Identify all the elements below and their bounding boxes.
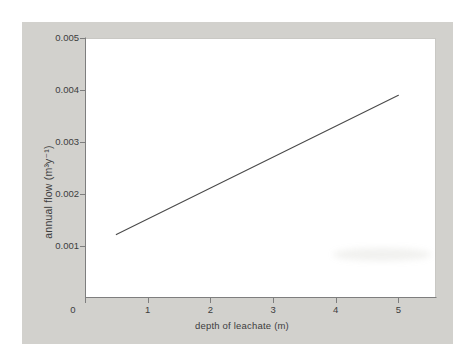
y-tick-label: 0.005 xyxy=(36,32,79,44)
figure-page: depth of leachate (m) annual flow (m³y⁻¹… xyxy=(0,0,468,364)
data-line xyxy=(116,95,398,234)
x-tick-label: 3 xyxy=(258,304,288,316)
y-tick-label: 0.004 xyxy=(36,84,79,96)
y-tick-label: 0.001 xyxy=(36,240,79,252)
y-tick-label: 0.002 xyxy=(36,188,79,200)
x-tick-label: 0 xyxy=(58,304,88,316)
x-tick-label: 4 xyxy=(321,304,351,316)
x-tick-label: 5 xyxy=(383,304,413,316)
x-tick-label: 2 xyxy=(195,304,225,316)
y-tick-label: 0.003 xyxy=(36,136,79,148)
x-tick-label: 1 xyxy=(133,304,163,316)
x-axis-title: depth of leachate (m) xyxy=(142,319,342,332)
